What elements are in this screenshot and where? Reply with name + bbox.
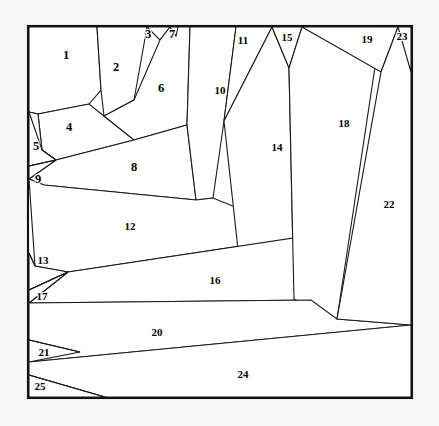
- region-label-5: 5: [33, 139, 39, 153]
- region-label-6: 6: [158, 81, 164, 95]
- region-label-17: 17: [37, 290, 49, 302]
- region-label-7: 7: [169, 27, 175, 41]
- region-label-9: 9: [35, 172, 41, 186]
- region-label-4: 4: [66, 120, 73, 134]
- region-label-19: 19: [362, 33, 374, 45]
- region-label-21: 21: [39, 346, 50, 358]
- region-label-24: 24: [238, 368, 250, 380]
- region-label-8: 8: [131, 160, 137, 174]
- region-label-10: 10: [215, 84, 227, 96]
- polygon-partition-diagram: 1234567891011121314151617181920212223242…: [0, 0, 439, 426]
- region-label-22: 22: [384, 198, 396, 210]
- region-label-15: 15: [282, 31, 294, 43]
- region-cell-1: [29, 27, 101, 114]
- region-label-13: 13: [38, 254, 50, 266]
- region-label-14: 14: [272, 141, 284, 153]
- region-label-23: 23: [397, 30, 409, 42]
- region-label-18: 18: [339, 117, 351, 129]
- region-label-2: 2: [113, 60, 119, 74]
- region-label-11: 11: [238, 34, 248, 46]
- region-label-20: 20: [152, 326, 164, 338]
- region-label-3: 3: [145, 27, 151, 41]
- figure-container: 1234567891011121314151617181920212223242…: [0, 0, 439, 426]
- region-label-25: 25: [35, 380, 47, 392]
- region-label-12: 12: [125, 220, 137, 232]
- region-label-1: 1: [63, 48, 69, 62]
- region-label-16: 16: [210, 274, 222, 286]
